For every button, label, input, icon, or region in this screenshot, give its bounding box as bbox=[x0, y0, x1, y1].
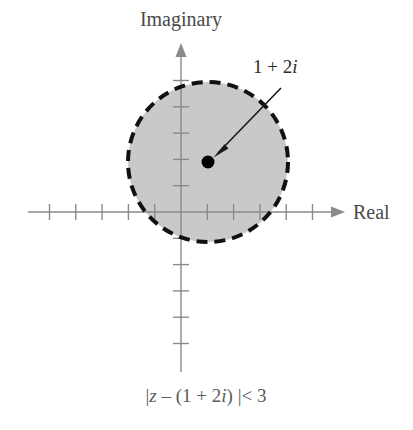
real-axis-arrowhead bbox=[331, 207, 345, 218]
caption-close-paren: ) bbox=[227, 385, 238, 407]
center-point-label-prefix: 1 + 2 bbox=[253, 56, 292, 77]
center-point-dot bbox=[202, 156, 215, 169]
real-axis-label: Real bbox=[353, 201, 390, 223]
imaginary-axis-label: Imaginary bbox=[140, 8, 222, 31]
caption-minus-expression: – (1 + 2 bbox=[157, 385, 222, 407]
imaginary-axis-arrowhead bbox=[176, 43, 187, 57]
figure-caption: |z – (1 + 2i) |< 3 bbox=[146, 385, 267, 407]
center-point-label: 1 + 2i bbox=[253, 56, 298, 77]
complex-plane-figure: Imaginary Real 1 + 2i |z – (1 + 2i) |< 3 bbox=[0, 0, 413, 430]
caption-relation: < 3 bbox=[241, 385, 266, 406]
complex-plane-canvas: Imaginary Real 1 + 2i |z – (1 + 2i) |< 3 bbox=[0, 0, 413, 430]
center-point-label-imaginary-unit: i bbox=[292, 56, 297, 77]
